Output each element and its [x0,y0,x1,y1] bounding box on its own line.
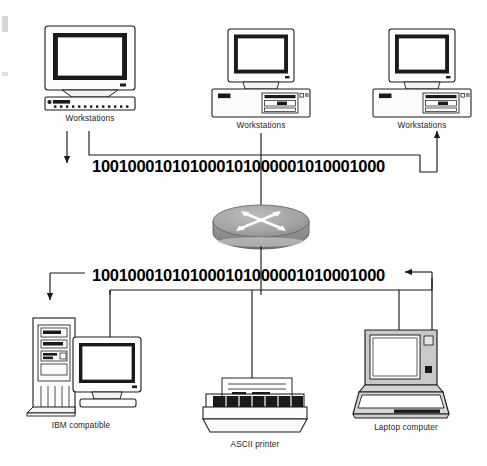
laptop-computer-label: Laptop computer [341,423,471,432]
ascii-printer-label: ASCII printer [198,440,312,449]
laptop-device[interactable] [353,330,449,418]
network-topology-diagram [0,0,487,466]
workstation-3-device[interactable] [373,29,471,117]
ascii-printer-device[interactable] [203,378,307,432]
router-device[interactable] [213,205,309,249]
workstation-3-label: Workstations [377,121,467,130]
binary-stream-upper: 100100010101000101000001010001000 [92,157,385,176]
binary-stream-lower: 100100010101000101000001010001000 [92,266,385,285]
workstation-1-device[interactable] [45,26,135,110]
workstation-1-label: Workstations [45,114,135,123]
ibm-compatible-device[interactable] [27,318,141,416]
scan-edge-artifacts [2,16,8,76]
ibm-compatible-label: IBM compatible [11,421,151,430]
workstation-2-device[interactable] [212,29,310,117]
workstation-2-label: Workstations [216,121,306,130]
